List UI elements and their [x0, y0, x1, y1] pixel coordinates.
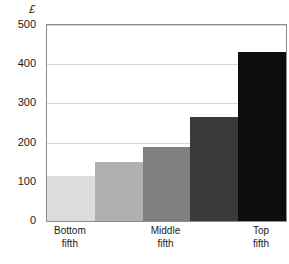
x-axis-label-3: Middlefifth — [142, 224, 190, 262]
y-axis-unit-label: £ — [29, 3, 35, 15]
bar-3 — [143, 147, 191, 221]
x-axis-label-5: Topfifth — [237, 224, 285, 262]
x-axis-label-line1: Middle — [151, 225, 180, 236]
x-axis-label-2 — [94, 224, 142, 262]
x-axis-label-line1: Top — [253, 225, 269, 236]
bar-series — [47, 25, 286, 221]
y-axis-tick-300: 300 — [18, 97, 36, 108]
plot-area — [46, 24, 287, 222]
bar-5 — [238, 52, 286, 221]
y-axis-tick-0: 0 — [30, 215, 36, 226]
x-axis-label-line2: fifth — [142, 237, 190, 250]
bar-chart: £ 5004003002001000 BottomfifthMiddlefift… — [0, 0, 289, 264]
x-axis-label-line2: fifth — [237, 237, 285, 250]
y-axis-tick-labels: 5004003002001000 — [0, 24, 42, 220]
x-axis-label-4 — [189, 224, 237, 262]
x-axis-label-line1: Bottom — [54, 225, 86, 236]
y-axis-tick-100: 100 — [18, 175, 36, 186]
y-axis-tick-400: 400 — [18, 58, 36, 69]
y-axis-tick-200: 200 — [18, 136, 36, 147]
bar-1 — [47, 176, 95, 221]
x-axis-label-1: Bottomfifth — [46, 224, 94, 262]
x-axis-label-line2: fifth — [46, 237, 94, 250]
bar-4 — [190, 117, 238, 221]
x-axis-category-labels: BottomfifthMiddlefifthTopfifth — [46, 224, 285, 262]
bar-2 — [95, 162, 143, 221]
y-axis-tick-500: 500 — [18, 19, 36, 30]
